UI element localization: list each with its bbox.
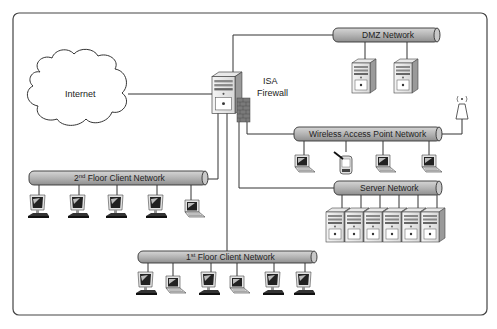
network-diagram: Internet I (0, 0, 497, 329)
dmz-network-label: DMZ Network (362, 30, 415, 40)
wireless-network-label: Wireless Access Point Network (309, 129, 427, 139)
floor2-network-label: 2nd Floor Client Network (74, 173, 166, 183)
firewall-label-line1: ISA (263, 76, 278, 86)
firewall-label-line2: Firewall (257, 88, 288, 98)
brick-wall-icon (237, 98, 250, 122)
floor1-network-label: 1st Floor Client Network (186, 252, 276, 262)
dmz-server-1 (352, 59, 376, 93)
server-6 (421, 208, 445, 242)
internet-label: Internet (65, 89, 96, 99)
server-network: Server Network (326, 181, 445, 242)
internet-cloud: Internet (27, 49, 126, 125)
server-network-label: Server Network (360, 183, 419, 193)
dmz-server-2 (394, 59, 418, 93)
